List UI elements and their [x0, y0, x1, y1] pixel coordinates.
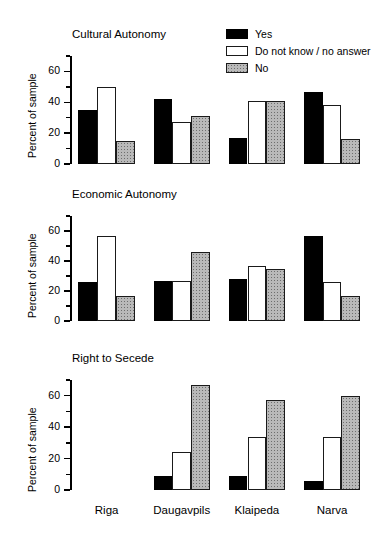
bar-riga-yes	[78, 110, 97, 164]
plot-area-0: 0204060	[70, 56, 370, 164]
subplot-cultural-autonomy: Cultural Autonomy Percent of sample 0204…	[0, 0, 385, 172]
bar-daugavpils-yes	[154, 281, 173, 322]
y-tick-major	[64, 260, 70, 262]
y-tick-label: 0	[34, 314, 60, 326]
bar-daugavpils-dont-know	[172, 122, 191, 164]
subplot-title: Cultural Autonomy	[72, 28, 166, 40]
bar-narva-no	[341, 396, 360, 490]
bar-klaipeda-yes	[229, 279, 248, 321]
bar-daugavpils-no	[191, 116, 210, 164]
y-tick-major	[64, 395, 70, 397]
bar-klaipeda-yes	[229, 138, 248, 164]
bar-narva-yes	[304, 92, 323, 165]
y-tick-major	[64, 102, 70, 104]
bar-narva-yes	[304, 481, 323, 490]
y-tick-major	[64, 458, 70, 460]
y-tick-major	[64, 163, 70, 165]
y-tick-label: 40	[34, 95, 60, 107]
bar-riga-yes	[78, 282, 97, 321]
y-tick-major	[64, 290, 70, 292]
y-tick-label: 60	[34, 64, 60, 76]
y-tick-major	[64, 320, 70, 322]
y-tick-major	[64, 71, 70, 73]
y-tick-minor	[66, 474, 70, 476]
y-tick-label: 20	[34, 284, 60, 296]
bar-klaipeda-dont-know	[248, 437, 267, 490]
y-tick-minor	[66, 442, 70, 444]
y-tick-label: 60	[34, 389, 60, 401]
y-axis-line	[70, 380, 72, 490]
bar-narva-no	[341, 296, 360, 322]
y-tick-minor	[66, 86, 70, 88]
y-tick-minor	[66, 411, 70, 413]
y-tick-minor	[66, 148, 70, 150]
y-tick-major	[64, 230, 70, 232]
bar-daugavpils-yes	[154, 476, 173, 490]
y-axis-line	[70, 56, 72, 164]
y-tick-label: 40	[34, 420, 60, 432]
y-axis-label: Percent of sample	[26, 233, 38, 318]
bar-narva-dont-know	[323, 282, 342, 321]
y-tick-minor	[66, 117, 70, 119]
bar-klaipeda-dont-know	[248, 101, 267, 164]
bar-klaipeda-no	[266, 269, 285, 322]
y-axis-line	[70, 216, 72, 321]
y-tick-minor	[66, 275, 70, 277]
bar-klaipeda-yes	[229, 476, 248, 490]
bar-riga-dont-know	[97, 236, 116, 322]
plot-area-1: 0204060	[70, 216, 370, 321]
y-tick-major	[64, 426, 70, 428]
bar-daugavpils-dont-know	[172, 452, 191, 490]
x-category-label-narva: Narva	[282, 504, 382, 516]
y-tick-label: 60	[34, 224, 60, 236]
y-axis-label: Percent of sample	[26, 73, 38, 158]
bar-daugavpils-dont-know	[172, 281, 191, 322]
y-tick-label: 0	[34, 483, 60, 495]
y-tick-minor	[66, 55, 70, 57]
subplot-title: Economic Autonomy	[72, 188, 177, 200]
bar-klaipeda-dont-know	[248, 266, 267, 322]
figure-root: Yes Do not know / no answer No Cultural …	[0, 0, 385, 543]
bar-narva-yes	[304, 236, 323, 322]
y-tick-label: 20	[34, 126, 60, 138]
bar-klaipeda-no	[266, 101, 285, 164]
bar-narva-dont-know	[323, 437, 342, 490]
y-tick-minor	[66, 305, 70, 307]
bar-daugavpils-yes	[154, 99, 173, 164]
bar-riga-no	[116, 141, 135, 164]
bar-daugavpils-no	[191, 385, 210, 490]
y-tick-minor	[66, 215, 70, 217]
bar-riga-no	[116, 296, 135, 322]
subplot-economic-autonomy: Economic Autonomy Percent of sample 0204…	[0, 166, 385, 326]
bar-daugavpils-no	[191, 252, 210, 321]
plot-area-2: 0204060RigaDaugavpilsKlaipedaNarva	[70, 380, 370, 490]
y-tick-minor	[66, 245, 70, 247]
bar-narva-no	[341, 139, 360, 164]
y-tick-major	[64, 489, 70, 491]
y-tick-major	[64, 132, 70, 134]
bar-klaipeda-no	[266, 400, 285, 490]
y-tick-label: 20	[34, 452, 60, 464]
y-tick-label: 40	[34, 254, 60, 266]
bar-narva-dont-know	[323, 105, 342, 164]
bar-riga-dont-know	[97, 87, 116, 164]
subplot-right-to-secede: Right to Secede Percent of sample 020406…	[0, 326, 385, 543]
y-tick-minor	[66, 379, 70, 381]
subplot-title: Right to Secede	[72, 352, 154, 364]
